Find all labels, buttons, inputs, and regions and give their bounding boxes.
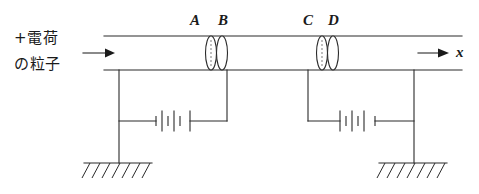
axis-arrow [418,49,449,58]
electrode-label-C: C [303,12,313,29]
electrode-label-B: B [218,12,228,29]
ground-right [377,163,447,178]
electrode-A-shape [206,36,217,70]
ground-right-hatching [377,163,445,178]
particle-label-line1: +電荷 [14,30,58,47]
ground-left-hatching [82,163,150,178]
right-circuit [308,70,414,163]
electrode-D-shape [328,36,339,70]
electrode-B-shape [217,36,228,70]
electrode-C-shape [317,36,328,70]
axis-arrow-head [438,49,449,58]
electrode-label-D: D [328,12,339,29]
physics-diagram: +電荷 の粒子 A B C D x [0,0,479,194]
diagram-canvas [0,0,479,194]
incoming-particle-arrow [83,49,115,58]
electrode-D-ellipse [328,36,339,70]
battery-right [340,111,375,131]
electrode-label-A: A [190,12,200,29]
battery-left [156,111,190,131]
electrode-B-ellipse [217,36,228,70]
particle-label-line2: の粒子 [14,56,61,73]
incoming-arrow-head [105,49,115,58]
ground-left [82,163,152,178]
left-circuit [119,70,227,163]
axis-label-x: x [456,44,464,61]
drift-tube-rails [104,36,462,70]
